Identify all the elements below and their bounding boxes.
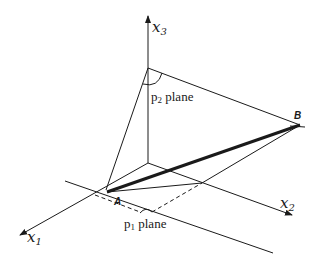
p2-left-edge (106, 68, 148, 190)
point-a-label: A (114, 197, 121, 207)
x1-axis-label: x1 (27, 230, 42, 247)
p2-plane-label: p2 plane (151, 90, 193, 105)
x2-axis-label: x2 (280, 196, 295, 213)
point-b-label: B (294, 111, 301, 121)
p1-angle-arc (140, 209, 152, 213)
p1-plane-label: p1 plane (124, 217, 166, 232)
diagram-canvas: x3 x2 x1 B A p2 plane p1 plane (0, 0, 318, 271)
x3-axis-label: x3 (152, 20, 167, 37)
p1-trace-line (65, 181, 273, 253)
